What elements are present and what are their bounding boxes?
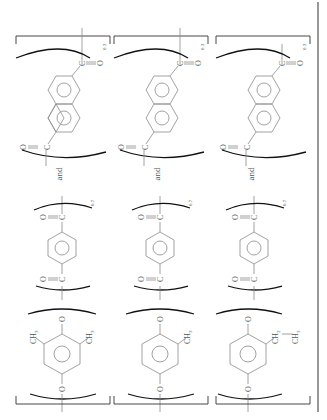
oxygen-label: O — [219, 144, 228, 150]
methyl-substituent: CH3 — [85, 330, 95, 344]
polymer-column-1: 0.3 C O C O and 0.7 C O C — [16, 28, 110, 412]
carbon-label: C — [141, 145, 150, 150]
oxygen-label: O — [137, 276, 146, 282]
bracket-top — [114, 36, 208, 44]
fraction-0.7: 0.7 — [282, 199, 287, 206]
carbon-label: C — [156, 277, 165, 282]
carbon-label: C — [250, 215, 259, 220]
oxygen-label: O — [231, 214, 240, 220]
carbon-label: C — [58, 215, 67, 220]
polymer-column-3: 0.3 C O C O and 0.7 C O C O O — [216, 36, 310, 412]
diol-arc-bottom — [218, 394, 282, 399]
diol-arc-bottom — [128, 394, 194, 399]
bracket-top — [16, 36, 110, 44]
oxygen-label: O — [244, 316, 253, 322]
fraction-0.3: 0.3 — [200, 43, 205, 50]
naphthalene-unit-arc-top — [216, 49, 290, 58]
oxygen-label: O — [194, 60, 203, 66]
fraction-0.3: 0.3 — [302, 43, 307, 50]
carbon-label: C — [78, 61, 87, 66]
oxygen-label: O — [19, 144, 28, 150]
fraction-0.7: 0.7 — [188, 199, 193, 206]
naphthalene-unit-arc-top — [114, 49, 188, 58]
oxygen-label: O — [137, 214, 146, 220]
fraction-0.3: 0.3 — [102, 43, 107, 50]
polymer-column-2: 0.3 C O C O and 0.7 C O C O O — [114, 28, 208, 412]
oxygen-label: O — [117, 144, 126, 150]
naphthalene-unit-arc-bottom — [120, 150, 204, 158]
terephthaloyl-arc-top — [132, 203, 190, 210]
diol-arc-top — [216, 309, 282, 314]
and-connector: and — [246, 167, 256, 180]
carbon-label: C — [250, 277, 259, 282]
terephthaloyl-arc-bottom — [228, 286, 282, 290]
diol-arc-bottom — [30, 394, 96, 399]
methyl-substituent: CH3 — [29, 330, 39, 344]
oxygen-label: O — [244, 386, 253, 392]
carbon-label: C — [156, 215, 165, 220]
oxygen-label: O — [39, 214, 48, 220]
oxygen-label: O — [156, 386, 165, 392]
naphthalene-unit-arc-bottom — [222, 150, 306, 158]
oxygen-label: O — [96, 60, 105, 66]
naphthalene-unit-arc-top — [16, 49, 90, 58]
oxygen-label: O — [296, 60, 305, 66]
and-connector: and — [54, 167, 64, 180]
bracket-top — [216, 36, 310, 44]
diol-arc-top — [126, 309, 194, 314]
carbon-label: C — [176, 61, 185, 66]
bracket-bottom — [16, 396, 110, 404]
oxygen-label: O — [58, 386, 67, 392]
terephthaloyl-arc-top — [226, 203, 284, 210]
oxygen-label: O — [156, 316, 165, 322]
oxygen-label: O — [231, 276, 240, 282]
bracket-bottom — [114, 396, 208, 404]
carbon-label: C — [43, 145, 52, 150]
diol-arc-top — [28, 309, 96, 314]
chemical-structure-figure: 0.3 C O C O and 0.7 C O C — [0, 0, 327, 420]
carbon-label: C — [243, 145, 252, 150]
oxygen-label: O — [39, 276, 48, 282]
fraction-0.7: 0.7 — [90, 199, 95, 206]
carbon-label: C — [58, 277, 67, 282]
ethyl-ch2-substituent: CH2 — [271, 330, 281, 344]
carbon-label: C — [278, 61, 287, 66]
methyl-substituent: CH3 — [183, 330, 193, 344]
terephthaloyl-arc-bottom — [36, 286, 90, 290]
oxygen-label: O — [58, 316, 67, 322]
terephthaloyl-arc-bottom — [134, 286, 188, 290]
ethyl-ch3-substituent: CH3 — [291, 330, 301, 344]
terephthaloyl-arc-top — [34, 203, 92, 210]
naphthalene-unit-arc-bottom — [22, 150, 106, 158]
and-connector: and — [152, 167, 162, 180]
